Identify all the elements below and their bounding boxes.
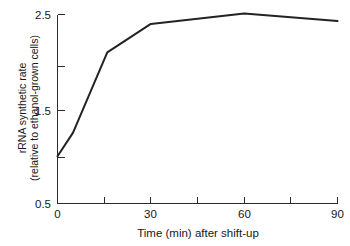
x-axis-ticks	[58, 197, 338, 204]
x-tick-label-0: 0	[54, 208, 60, 220]
x-axis-title: Time (min) after shift-up	[137, 227, 259, 239]
chart-figure: 0.5 1.5 2.5 0 30 60 90 Time (min) after …	[0, 0, 350, 246]
axes-group	[58, 15, 338, 204]
y-tick-label-2: 2.5	[35, 9, 51, 21]
y-axis-title-line2: (relative to ethanol-grown cells)	[28, 35, 40, 181]
axis-lines	[58, 15, 338, 204]
y-tick-label-0: 0.5	[35, 198, 51, 210]
rrna-synthetic-rate-line-chart: 0.5 1.5 2.5 0 30 60 90 Time (min) after …	[0, 0, 350, 246]
y-axis-title-line1: rRNA synthetic rate	[16, 63, 28, 154]
y-axis-ticks	[58, 15, 65, 204]
x-tick-label-1: 30	[144, 208, 157, 220]
x-tick-label-2: 60	[238, 208, 251, 220]
x-tick-label-3: 90	[331, 208, 344, 220]
data-series-line	[58, 14, 338, 157]
